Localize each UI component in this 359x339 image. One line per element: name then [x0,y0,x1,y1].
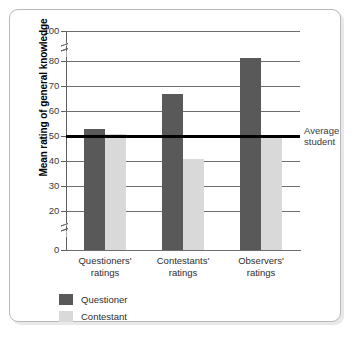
legend-swatch-questioner [59,294,73,305]
x-category-label-2-line-1: Contestants' [140,255,226,267]
average-student-label-line-2: student [304,136,356,147]
y-axis-tick-40 [61,161,66,162]
x-category-label-1-line-2: ratings [62,267,148,279]
average-student-label-line-1: Average [304,125,356,136]
y-axis-tick-100 [61,31,66,32]
legend-label-contestant: Contestant [81,311,127,322]
legend-item-questioner: Questioner [59,292,127,307]
x-category-label-3-line-2: ratings [218,267,304,279]
y-axis-tick-80 [61,61,66,62]
y-axis-tick-0 [61,250,66,251]
bar-contestant-3 [261,136,282,250]
plot-area [66,31,300,250]
y-axis-title: Mean rating of general knowledge [38,3,49,193]
y-axis-break-upper [59,43,71,57]
x-category-label-3: Observers'ratings [218,255,304,278]
bar-contestant-1 [105,134,126,251]
gridline-100 [66,31,300,32]
bar-questioner-2 [162,94,183,251]
bar-questioner-3 [240,58,261,250]
average-student-label: Averagestudent [304,125,356,147]
y-tick-label-20: 20 [35,205,59,216]
x-axis-line [66,250,301,251]
x-category-label-2: Contestants'ratings [140,255,226,278]
legend-swatch-contestant [59,311,73,322]
x-category-label-1: Questioners'ratings [62,255,148,278]
chart-legend: QuestionerContestant [59,292,127,326]
bar-questioner-1 [84,129,105,251]
legend-item-contestant: Contestant [59,309,127,324]
legend-label-questioner: Questioner [81,294,127,305]
average-student-line [66,135,300,138]
x-category-label-3-line-1: Observers' [218,255,304,267]
y-axis-tick-50 [61,136,66,137]
y-axis-break-lower [59,223,71,237]
gridline-60 [66,111,300,112]
figure-root: 020304050607080100 Mean rating of genera… [0,0,359,339]
x-category-label-1-line-1: Questioners' [62,255,148,267]
gridline-70 [66,86,300,87]
gridline-80 [66,61,300,62]
y-axis-tick-20 [61,211,66,212]
y-axis-tick-60 [61,111,66,112]
bar-contestant-2 [183,159,204,251]
y-axis-tick-70 [61,86,66,87]
y-axis-tick-30 [61,186,66,187]
y-tick-label-0: 0 [35,244,59,255]
x-category-label-2-line-2: ratings [140,267,226,279]
